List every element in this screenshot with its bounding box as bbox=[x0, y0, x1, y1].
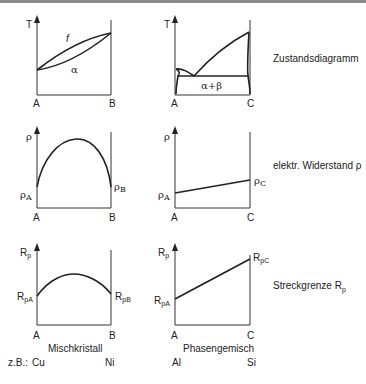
end-value-label: ρB bbox=[114, 181, 126, 194]
x-label-c: C bbox=[247, 98, 254, 109]
column-title-solid-solution: Mischkristall bbox=[48, 343, 102, 354]
end-value-label: RpC bbox=[253, 252, 269, 265]
x-label-c: C bbox=[247, 212, 254, 223]
resistance-curve bbox=[37, 139, 111, 187]
region-alpha-beta-label: α+β bbox=[201, 80, 222, 91]
label-phase-diagram: Zustandsdiagramm bbox=[273, 53, 359, 64]
phase-diagram-eutectic: T A C α+β bbox=[164, 19, 254, 109]
y-axis-label: T bbox=[26, 19, 32, 30]
example-cu: Cu bbox=[32, 357, 45, 368]
x-label-a: A bbox=[33, 212, 40, 223]
resistance-solid-solution: ρ ρA ρB A B bbox=[20, 131, 126, 223]
y-axis-label: ρ bbox=[26, 131, 32, 142]
example-ni: Ni bbox=[105, 357, 114, 368]
phase-diagram-solid-solution: T A B f α bbox=[26, 19, 116, 109]
x-label-a: A bbox=[171, 212, 178, 223]
start-value-label: RpA bbox=[17, 291, 33, 304]
column-title-phase-mixture: Phasengemisch bbox=[183, 343, 254, 354]
y-axis-label: Rp bbox=[20, 247, 31, 260]
yield-line bbox=[175, 259, 250, 299]
y-axis-label: T bbox=[164, 19, 170, 30]
x-label-a: A bbox=[171, 98, 178, 109]
label-yield-strength: Streckgrenze Rp bbox=[273, 280, 346, 293]
resistance-line bbox=[175, 180, 250, 193]
end-value-label: ρC bbox=[254, 175, 266, 188]
x-label-a: A bbox=[171, 330, 178, 341]
liquidus-right bbox=[194, 32, 249, 76]
y-axis-label: ρ bbox=[164, 131, 170, 142]
start-value-label: RpA bbox=[154, 295, 170, 308]
start-value-label: ρA bbox=[20, 189, 32, 202]
end-value-label: RpB bbox=[115, 291, 131, 304]
y-axis-label: Rp bbox=[158, 247, 169, 260]
x-label-c: C bbox=[247, 330, 254, 341]
solvus-left bbox=[176, 69, 179, 94]
label-electrical-resistance: elektr. Widerstand ρ bbox=[273, 160, 362, 171]
region-alpha-label: α bbox=[71, 64, 78, 75]
example-si: Si bbox=[247, 357, 256, 368]
yield-solid-solution: Rp RpA RpB A B bbox=[17, 247, 131, 341]
example-prefix: z.B.: bbox=[8, 357, 28, 368]
x-label-b: B bbox=[109, 212, 116, 223]
example-al: Al bbox=[172, 357, 181, 368]
yield-curve bbox=[37, 274, 111, 296]
x-label-a: A bbox=[33, 98, 40, 109]
x-label-a: A bbox=[33, 330, 40, 341]
resistance-phase-mixture: ρ ρA ρC A C bbox=[158, 131, 266, 223]
x-label-b: B bbox=[109, 98, 116, 109]
x-label-b: B bbox=[109, 330, 116, 341]
region-liquid-label: f bbox=[66, 33, 70, 44]
yield-phase-mixture: Rp RpA RpC A C bbox=[154, 247, 269, 341]
start-value-label: ρA bbox=[158, 189, 170, 202]
